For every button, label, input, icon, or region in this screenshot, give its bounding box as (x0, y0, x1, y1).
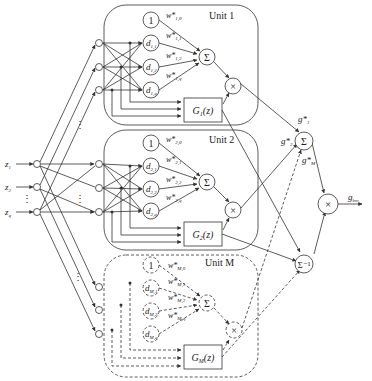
ellipsis-upper: ⋮ (75, 119, 85, 130)
unit-1-weights: w*1,0 w*1,1 w*1,2 w*1,q (166, 11, 182, 82)
unit-1-mult-node: × (225, 78, 241, 94)
input-label-z2: z2 (4, 182, 12, 193)
svg-text:×: × (230, 205, 236, 216)
input-zq (16, 209, 41, 216)
svg-text:Σ: Σ (301, 136, 307, 147)
svg-text:1: 1 (149, 138, 154, 149)
unit-2-gate-box: G2(z) (184, 222, 222, 246)
svg-text:1: 1 (149, 260, 154, 271)
svg-text:1: 1 (149, 15, 154, 26)
svg-text:×: × (325, 198, 331, 210)
svg-text:Σ: Σ (204, 298, 210, 309)
unit-1-gate-box: G1(z) (184, 98, 222, 122)
unit-m-title: Unit M (205, 257, 234, 268)
unit-2-title: Unit 2 (209, 134, 234, 145)
input-label-zq: zq (4, 207, 12, 218)
unit-1-d-nodes: d1,1 d1,2 d1,q (143, 35, 159, 98)
svg-text:×: × (230, 81, 236, 92)
ellipsis-mid: ⋮ (75, 193, 85, 204)
svg-text:w*2,2: w*2,2 (166, 175, 182, 186)
unit-2-sum-node: Σ (199, 174, 215, 190)
input-fanout-lines (40, 45, 95, 331)
svg-text:g*2: g*2 (281, 136, 293, 147)
svg-text:GM(z): GM(z) (192, 352, 215, 364)
output-label: gbm (348, 192, 359, 203)
svg-text:w*1,q: w*1,q (166, 71, 182, 82)
unit-1-title: Unit 1 (209, 10, 234, 21)
network-diagram: ⋮ ⋮ ⋮ ⋮ 1 d1,1 d1,2 d1,q w*1,0 w*1,1 (0, 0, 372, 381)
input-z1 (16, 161, 41, 168)
svg-text:w*M,1: w*M,1 (168, 277, 185, 288)
output-inverse-sum-node: Σ⁻¹ (295, 255, 313, 273)
input-label-z1: z1 (4, 159, 11, 170)
svg-text:G1(z): G1(z) (193, 105, 214, 117)
svg-text:g*1: g*1 (298, 114, 310, 125)
ellipsis-inputs: ⋮ (22, 193, 32, 204)
input-z2 (16, 184, 41, 191)
svg-text:Σ: Σ (204, 177, 210, 188)
unit-1-bias-node: 1 (143, 12, 159, 28)
svg-text:g*M: g*M (302, 155, 316, 166)
svg-text:w*1,2: w*1,2 (166, 51, 182, 62)
output-wiring (222, 84, 362, 357)
svg-text:w*1,0: w*1,0 (166, 11, 182, 22)
unit-m-d-nodes: dM,1 dM,2 dM,q (143, 280, 159, 342)
unit-2-bias-node: 1 (143, 135, 159, 151)
unit-m-bias-node: 1 (143, 257, 159, 273)
svg-text:w*M,q: w*M,q (168, 311, 186, 322)
ellipsis-lower: ⋮ (73, 271, 83, 282)
unit-1-sum-node: Σ (199, 49, 215, 65)
svg-text:w*M,2: w*M,2 (168, 293, 186, 304)
unit-2-mult-node: × (225, 202, 241, 218)
svg-text:×: × (231, 325, 237, 336)
unit-1-box (104, 5, 258, 125)
svg-text:w*M,0: w*M,0 (168, 261, 186, 272)
svg-text:w*2,0: w*2,0 (166, 135, 182, 146)
distribution-nodes (96, 40, 103, 338)
svg-text:Σ: Σ (204, 52, 210, 63)
unit-m-sum-node: Σ (199, 295, 215, 311)
unit-2-box (104, 130, 258, 250)
svg-text:w*1,1: w*1,1 (166, 31, 182, 42)
output-sum-node: Σ (295, 132, 313, 150)
unit-m-gate-box: GM(z) (184, 345, 222, 369)
svg-text:w*2,1: w*2,1 (166, 155, 182, 166)
unit-m-mult-node: × (226, 322, 242, 338)
unit-2-d-nodes: d2,1 d2,2 d2,q (143, 158, 159, 219)
output-mult-node: × (318, 194, 338, 214)
svg-text:Σ⁻¹: Σ⁻¹ (298, 260, 311, 270)
svg-text:G2(z): G2(z) (193, 229, 214, 241)
